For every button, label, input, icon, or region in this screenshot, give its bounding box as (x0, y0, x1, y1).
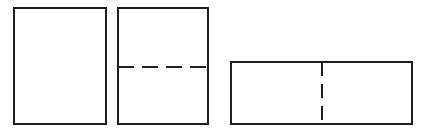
diagram-canvas (0, 0, 427, 133)
geometry-figure (0, 0, 427, 133)
plain-vertical-rectangle (14, 8, 106, 124)
